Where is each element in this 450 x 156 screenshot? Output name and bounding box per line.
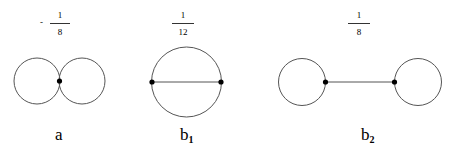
loop-right — [395, 59, 442, 106]
vertex-right — [392, 79, 397, 84]
diagram-a — [14, 58, 105, 104]
loop-left — [279, 59, 326, 106]
label-text: b — [180, 125, 189, 144]
vertex — [57, 78, 62, 83]
diagram-b2 — [279, 59, 442, 106]
coefficient-b1: 1 12 — [172, 11, 194, 37]
coefficient-sign: - — [40, 18, 43, 27]
loop-left — [14, 58, 60, 104]
label-text: a — [55, 125, 63, 144]
fraction-bar — [348, 23, 370, 24]
denominator: 8 — [348, 28, 370, 37]
fraction-bar — [50, 23, 70, 24]
denominator: 8 — [50, 28, 70, 37]
numerator: 1 — [50, 11, 70, 20]
label-subscript: 1 — [189, 134, 194, 145]
coefficient-b2: 1 8 — [348, 11, 370, 37]
label-text: b — [361, 125, 370, 144]
vertex-left — [323, 79, 328, 84]
fraction-bar — [172, 23, 194, 24]
label-a: a — [55, 125, 63, 145]
label-b1: b1 — [180, 125, 194, 145]
loop-right — [59, 58, 105, 104]
diagram-b1 — [149, 47, 223, 117]
vertex-left — [149, 79, 154, 84]
numerator: 1 — [172, 11, 194, 20]
label-b2: b2 — [361, 125, 375, 145]
denominator: 12 — [172, 28, 194, 37]
numerator: 1 — [348, 11, 370, 20]
coefficient-a: - 1 8 — [50, 11, 70, 37]
vertex-right — [218, 79, 223, 84]
label-subscript: 2 — [370, 134, 375, 145]
